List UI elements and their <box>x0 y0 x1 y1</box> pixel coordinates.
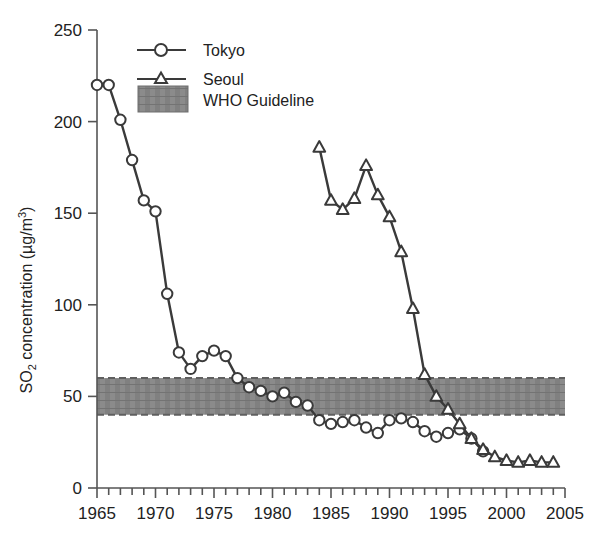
so2-concentration-chart: 0501001502002501965197019751980198519901… <box>0 0 601 552</box>
data-point-circle-marker <box>115 115 125 125</box>
data-point-circle-marker <box>349 415 359 425</box>
x-axis-tick-label: 1975 <box>195 504 233 523</box>
x-axis-tick-label: 1965 <box>78 504 116 523</box>
data-point-circle-marker <box>326 419 336 429</box>
y-axis-tick-label: 150 <box>54 204 82 223</box>
data-point-circle-marker <box>431 432 441 442</box>
chart-canvas: 0501001502002501965197019751980198519901… <box>0 0 601 552</box>
data-point-circle-marker <box>361 422 371 432</box>
data-point-circle-marker <box>267 391 277 401</box>
x-axis-tick-label: 1990 <box>371 504 409 523</box>
legend-label-seoul: Seoul <box>203 71 244 88</box>
data-point-circle-marker <box>92 80 102 90</box>
legend-label-tokyo: Tokyo <box>203 42 245 59</box>
data-point-circle-marker <box>279 388 289 398</box>
who-guideline-band <box>97 378 565 415</box>
x-axis-tick-label: 2005 <box>546 504 584 523</box>
data-point-circle-marker <box>302 400 312 410</box>
data-point-circle-marker <box>221 351 231 361</box>
data-point-circle-marker <box>314 415 324 425</box>
data-point-circle-marker <box>232 373 242 383</box>
x-axis-tick-label: 2000 <box>488 504 526 523</box>
data-point-circle-marker <box>291 397 301 407</box>
y-axis-tick-label: 250 <box>54 21 82 40</box>
y-axis-tick-label: 200 <box>54 113 82 132</box>
x-axis-tick-label: 1980 <box>254 504 292 523</box>
legend-label-who-guideline: WHO Guideline <box>203 92 314 109</box>
data-point-circle-marker <box>162 289 172 299</box>
y-axis-tick-label: 50 <box>63 387 82 406</box>
y-axis-tick-label: 100 <box>54 296 82 315</box>
legend-circle-marker-icon <box>155 44 167 56</box>
data-point-circle-marker <box>408 417 418 427</box>
data-point-circle-marker <box>185 364 195 374</box>
who-guideline-band-rect <box>97 378 565 415</box>
chart-background <box>0 0 601 552</box>
data-point-circle-marker <box>396 413 406 423</box>
data-point-circle-marker <box>373 428 383 438</box>
data-point-circle-marker <box>104 80 114 90</box>
legend-band-swatch-icon <box>138 86 188 112</box>
data-point-circle-marker <box>209 345 219 355</box>
data-point-circle-marker <box>244 382 254 392</box>
data-point-circle-marker <box>139 195 149 205</box>
data-point-circle-marker <box>127 155 137 165</box>
x-axis-tick-label: 1985 <box>312 504 350 523</box>
data-point-circle-marker <box>197 351 207 361</box>
x-axis-tick-label: 1970 <box>137 504 175 523</box>
data-point-circle-marker <box>443 428 453 438</box>
x-axis-tick-label: 1995 <box>429 504 467 523</box>
data-point-circle-marker <box>384 415 394 425</box>
data-point-circle-marker <box>174 347 184 357</box>
data-point-circle-marker <box>419 426 429 436</box>
y-axis-tick-label: 0 <box>73 479 82 498</box>
data-point-circle-marker <box>338 417 348 427</box>
data-point-circle-marker <box>256 386 266 396</box>
data-point-circle-marker <box>150 206 160 216</box>
